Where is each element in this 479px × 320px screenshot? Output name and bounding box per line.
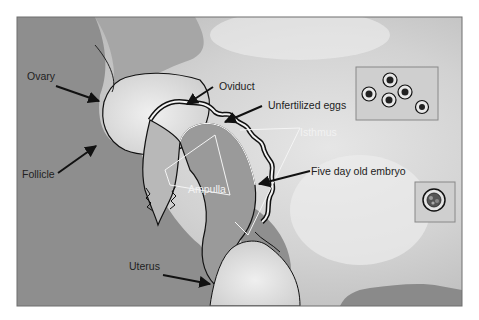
embryo-inset <box>415 182 455 222</box>
egg-cell <box>398 85 412 99</box>
reproductive-tract-diagram: Ovary Follicle Oviduct Unfertilized eggs… <box>0 0 479 320</box>
label-five-day-embryo: Five day old embryo <box>311 165 406 177</box>
egg-cell <box>382 93 396 107</box>
label-follicle: Follicle <box>22 168 55 180</box>
egg-cell <box>383 73 397 87</box>
illustration-background <box>17 10 462 306</box>
label-isthmus: Isthmus <box>300 126 337 138</box>
label-uterus: Uterus <box>129 260 160 272</box>
label-ampulla: Ampulla <box>188 183 226 195</box>
unfertilized-eggs-inset <box>356 67 438 120</box>
label-oviduct: Oviduct <box>219 80 255 92</box>
label-unfertilized-eggs: Unfertilized eggs <box>268 99 346 111</box>
label-ovary: Ovary <box>27 70 56 82</box>
egg-cell <box>416 101 429 114</box>
egg-cell <box>362 87 376 101</box>
